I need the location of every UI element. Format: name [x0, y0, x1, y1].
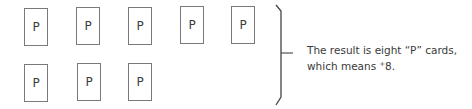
right-brace-icon	[262, 0, 302, 109]
p-card: P	[24, 8, 48, 46]
result-line-2-prefix: which means	[307, 60, 380, 72]
p-card: P	[180, 6, 204, 44]
result-value: 8	[385, 60, 392, 72]
result-line-2: which means +8.	[307, 57, 472, 73]
p-card: P	[231, 6, 255, 44]
p-card: P	[128, 7, 152, 45]
result-line-2-suffix: .	[392, 60, 395, 72]
p-card: P	[24, 64, 48, 102]
p-card: P	[76, 7, 100, 45]
p-card: P	[128, 63, 152, 101]
result-caption: The result is eight “P” cards, which mea…	[307, 43, 472, 73]
result-line-1: The result is eight “P” cards,	[307, 43, 472, 57]
p-card: P	[77, 63, 101, 101]
